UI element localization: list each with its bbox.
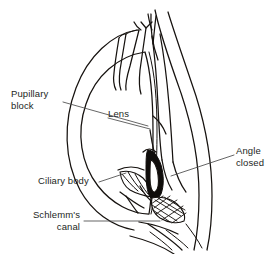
anatomical-figure: Pupillary block Lens Angle closed Ciliar… xyxy=(0,0,280,254)
leader-angle-closed xyxy=(171,155,234,176)
iris-upper xyxy=(114,28,146,94)
leader-lens xyxy=(108,118,150,129)
label-ciliary-body: Ciliary body xyxy=(38,175,98,187)
label-pupillary-block: Pupillary block xyxy=(11,88,77,111)
trabecular-meshwork xyxy=(151,196,186,223)
limbal-detail xyxy=(139,222,202,250)
label-angle-closed: Angle closed xyxy=(236,145,280,168)
label-schlemms-canal: Schlemm's canal xyxy=(18,209,80,232)
label-lens: Lens xyxy=(108,108,148,120)
